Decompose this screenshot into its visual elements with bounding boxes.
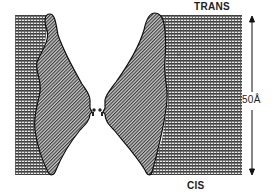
diagram-graphic xyxy=(0,0,272,194)
inner-label: ν xyxy=(177,51,180,57)
channel-diagram: TRANS CIS 50Å ν xyxy=(0,0,272,194)
trans-label: TRANS xyxy=(194,1,230,12)
channel-protein-right xyxy=(103,13,167,175)
cis-label: CIS xyxy=(187,180,205,191)
selectivity-filter xyxy=(92,108,103,116)
scale-label: 50Å xyxy=(242,94,261,105)
